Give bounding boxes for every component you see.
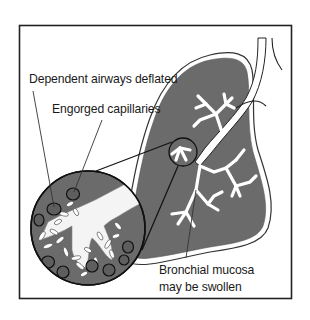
lung-illustration [0,0,310,320]
label-bronchial-mucosa-line1: Bronchial mucosa [159,263,254,277]
leader-dependent-airways [33,91,54,207]
label-dependent-airways: Dependent airways deflated [29,72,178,86]
label-bronchial-mucosa-line2: may be swollen [159,280,242,294]
label-engorged-capillaries: Engorged capillaries [52,102,160,116]
diagram-canvas: Dependent airways deflated Engorged capi… [0,0,310,320]
